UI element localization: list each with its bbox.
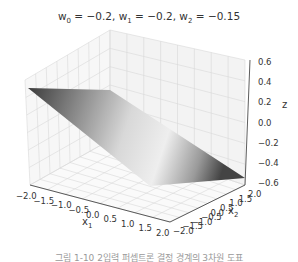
x1-tick-label: 1.5 [139, 223, 153, 233]
3d-surface-plot: −2.0−1.5−1.0−0.50.00.51.01.52.0−2.0−1.5−… [0, 0, 298, 262]
z-tick-label: −0.6 [258, 178, 279, 188]
figure-caption: 그림 1-10 2입력 퍼셉트론 결정 경계의 3차원 도표 [0, 251, 298, 262]
x1-tick-label: 2.0 [156, 228, 170, 238]
z-tick-label: 0.6 [258, 57, 272, 67]
z-tick-label: 0.2 [258, 97, 272, 107]
z-tick-label: −0.2 [258, 138, 279, 148]
z-tick-label: 0.0 [258, 118, 272, 128]
x2-tick-label: 2.0 [248, 189, 262, 199]
z-tick-label: −0.4 [258, 158, 279, 168]
z-tick-label: 0.4 [258, 77, 272, 87]
x1-tick-label: 1.0 [121, 219, 135, 229]
z-axis-label: z [282, 99, 287, 110]
x1-tick-label: 0.0 [86, 210, 100, 220]
x1-tick-label: 0.5 [104, 214, 118, 224]
